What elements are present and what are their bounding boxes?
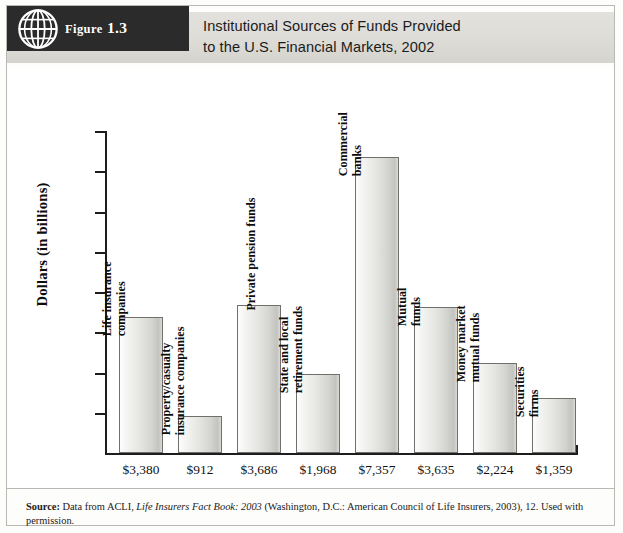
- bar-category-label: Mutualfunds: [396, 287, 423, 326]
- bar-label-line: Life insurance: [101, 261, 115, 336]
- figure-number: Figure 1.3: [65, 19, 127, 37]
- bar-category-label: State and localretirement funds: [278, 306, 305, 393]
- source-publication-title: Life Insurers Fact Book: 2003: [136, 501, 261, 512]
- figure-title: Institutional Sources of Funds Provided …: [203, 16, 603, 58]
- figure-index: 1.3: [107, 19, 128, 36]
- bar-category-label: Money marketmutual funds: [455, 306, 482, 383]
- source-label: Source:: [26, 501, 60, 512]
- footer-divider: [7, 488, 614, 489]
- x-axis-end-tick: [576, 445, 578, 455]
- y-axis-ticks: 01,0002,0003,0004,0005,0006,0007,0008,00…: [7, 68, 105, 488]
- bar-label-line: Money market: [455, 306, 469, 383]
- bar-label-line: firms: [527, 367, 541, 418]
- bar-label-line: Commercial: [337, 112, 351, 176]
- bar-chart-plot: Dollars (in billions) 01,0002,0003,0004,…: [7, 68, 614, 488]
- bar-label-line: mutual funds: [468, 306, 482, 383]
- bar-label-line: companies: [114, 261, 128, 336]
- bar: [119, 317, 163, 453]
- bar-label-line: Mutual: [396, 287, 410, 326]
- bar-label-line: retirement funds: [291, 306, 305, 393]
- globe-icon: [15, 7, 61, 51]
- bar-label-line: funds: [409, 287, 423, 326]
- figure-title-line-1: Institutional Sources of Funds Provided: [203, 16, 603, 37]
- bar-category-label: Securitiesfirms: [514, 367, 541, 418]
- bar: [414, 307, 458, 453]
- x-axis-line: [105, 453, 578, 455]
- bar-category-label: Private pension funds: [245, 197, 259, 310]
- bar-value-label: $1,359: [514, 462, 594, 478]
- bar-label-line: banks: [350, 112, 364, 176]
- bar: [355, 157, 399, 453]
- source-text-before: Data from ACLI,: [60, 501, 136, 512]
- bar-category-label: Life insurancecompanies: [101, 261, 128, 336]
- bar-label-line: Securities: [514, 367, 528, 418]
- figure-title-line-2: to the U.S. Financial Markets, 2002: [203, 37, 603, 58]
- bar: [237, 305, 281, 453]
- source-note: Source: Data from ACLI, Life Insurers Fa…: [26, 500, 601, 528]
- bar-label-line: Property/casualty: [160, 327, 174, 436]
- figure-word: Figure: [65, 22, 103, 36]
- figure-badge: Figure 1.3: [7, 6, 189, 51]
- figure-header: Figure 1.3 Institutional Sources of Fund…: [7, 6, 614, 68]
- bar-label-line: State and local: [278, 306, 292, 393]
- figure-page: Figure 1.3 Institutional Sources of Fund…: [0, 0, 623, 533]
- chart-area: Dollars (in billions) 01,0002,0003,0004,…: [7, 68, 614, 488]
- bar-category-label: Commercialbanks: [337, 112, 364, 176]
- bar-label-line: Private pension funds: [245, 197, 259, 310]
- bar-label-line: insurance companies: [173, 327, 187, 436]
- bar-category-label: Property/casualtyinsurance companies: [160, 327, 187, 436]
